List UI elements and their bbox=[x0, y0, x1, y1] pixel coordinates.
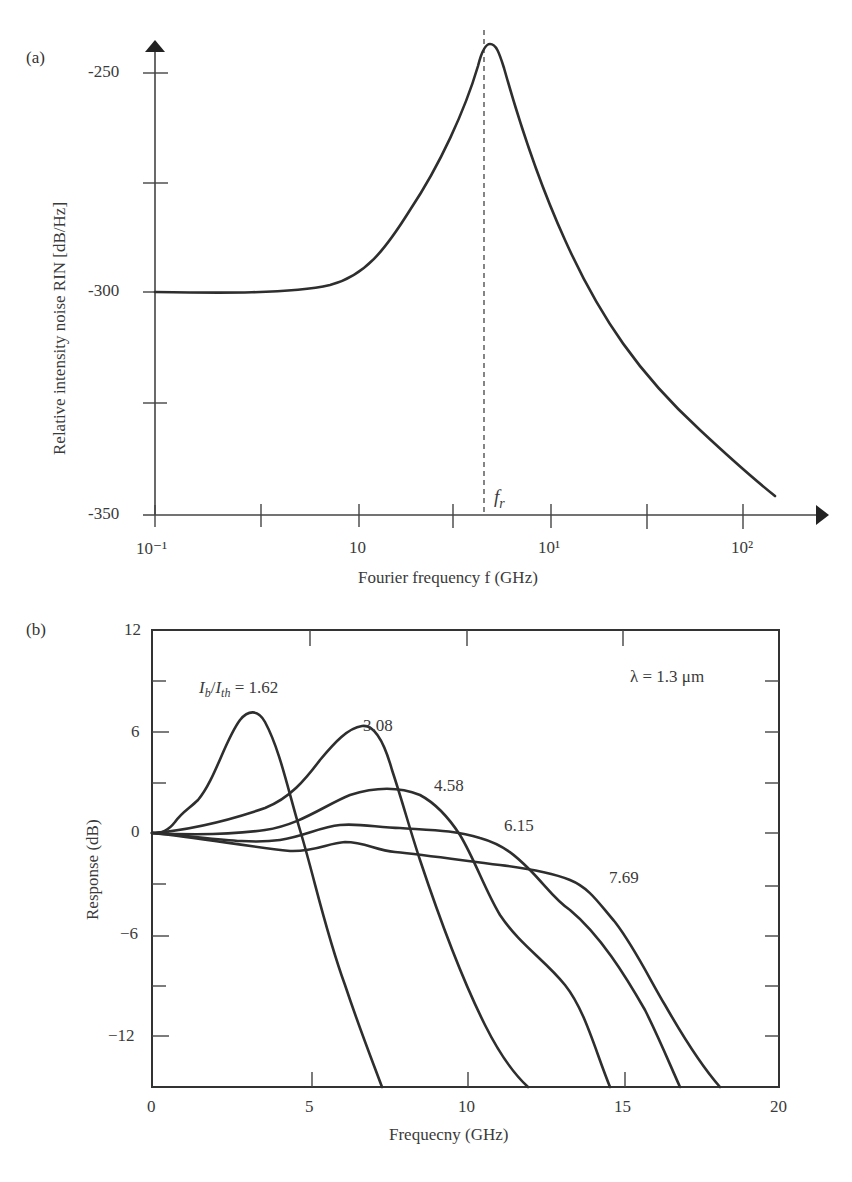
x-tick-label: 10¹ bbox=[538, 538, 560, 558]
panel-b-y-axis-title: Response (dB) bbox=[83, 819, 103, 920]
y-tick-label: 6 bbox=[131, 722, 140, 742]
x-tick-label: 10 bbox=[349, 538, 366, 558]
y-tick-label: -350 bbox=[88, 504, 119, 524]
x-tick-label: 5 bbox=[305, 1097, 314, 1117]
x-tick-label: 10⁻¹ bbox=[136, 538, 167, 559]
response-curve-3-08 bbox=[152, 726, 528, 1087]
x-tick-label: 20 bbox=[770, 1097, 787, 1117]
y-tick-label: -300 bbox=[88, 281, 119, 301]
panel-b-x-axis-title: Frequecny (GHz) bbox=[389, 1125, 508, 1145]
y-tick-label: −12 bbox=[108, 1026, 135, 1046]
y-tick-label: -250 bbox=[88, 62, 119, 82]
response-curve-4-58 bbox=[152, 789, 610, 1087]
y-tick-label: 12 bbox=[124, 620, 141, 640]
resonance-frequency-label: fr bbox=[494, 486, 505, 512]
wavelength-annotation: λ = 1.3 μm bbox=[630, 667, 704, 687]
y-tick-label: 0 bbox=[131, 822, 140, 842]
x-tick-label: 10 bbox=[458, 1097, 475, 1117]
response-curve-1-62 bbox=[152, 712, 382, 1087]
panel-b-tag: (b) bbox=[26, 620, 46, 640]
y-tick-label: −6 bbox=[120, 924, 138, 944]
figure-canvas bbox=[0, 0, 852, 1182]
x-tick-label: 10² bbox=[731, 538, 753, 558]
panel-a-y-axis-title: Relative intensity noise RIN [dB/Hz] bbox=[50, 202, 70, 455]
x-tick-label: 0 bbox=[147, 1097, 156, 1117]
curve-label-7-69: 7.69 bbox=[609, 868, 639, 888]
curve-label-1-62: Ib/Ith = 1.62 bbox=[199, 678, 278, 701]
panel-a-tag: (a) bbox=[26, 48, 45, 68]
response-curve-6-15 bbox=[152, 825, 680, 1087]
curve-label-4-58: 4.58 bbox=[434, 776, 464, 796]
curve-label-3-08: 3.08 bbox=[363, 716, 393, 736]
x-tick-label: 15 bbox=[614, 1097, 631, 1117]
panel-a-x-axis-title: Fourier frequency f (GHz) bbox=[358, 568, 538, 588]
curve-label-6-15: 6.15 bbox=[504, 816, 534, 836]
panel-a-chart bbox=[143, 30, 829, 529]
x-axis-arrow-icon bbox=[816, 505, 829, 525]
rin-curve bbox=[155, 44, 775, 496]
y-axis-arrow-icon bbox=[145, 40, 165, 52]
